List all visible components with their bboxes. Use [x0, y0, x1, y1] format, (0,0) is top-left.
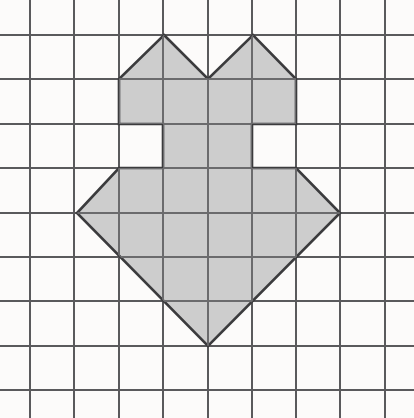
figure-canvas	[0, 0, 414, 418]
grid-shape-figure	[0, 0, 414, 418]
